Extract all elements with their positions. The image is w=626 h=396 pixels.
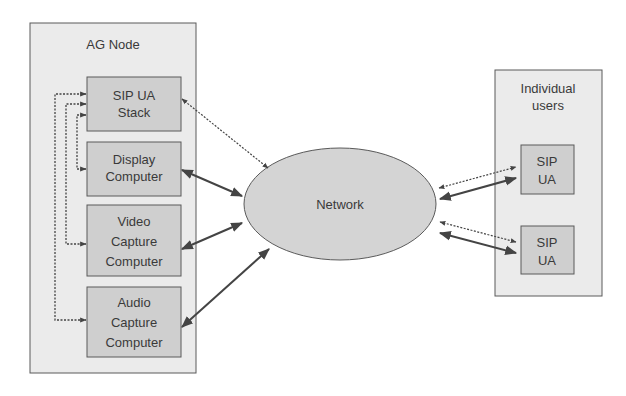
audio-capture-label-line2: Capture bbox=[111, 315, 157, 330]
display-computer-label-line1: Display bbox=[113, 152, 156, 167]
video-capture-label-line3: Computer bbox=[105, 254, 163, 269]
individual-users-title-line1: Individual bbox=[521, 81, 576, 96]
sip-ua-2-box: SIP UA bbox=[521, 226, 574, 274]
network-label: Network bbox=[316, 197, 364, 212]
video-capture-computer-box: Video Capture Computer bbox=[87, 205, 181, 276]
individual-users-title-line2: users bbox=[532, 98, 564, 113]
display-computer-box: Display Computer bbox=[87, 142, 181, 196]
sip-ua-2-label-line1: SIP bbox=[537, 235, 558, 250]
video-capture-label-line1: Video bbox=[117, 214, 150, 229]
diagram-canvas: AG Node SIP UA Stack Display Computer Vi… bbox=[0, 0, 626, 396]
audio-capture-label-line1: Audio bbox=[117, 295, 150, 310]
sip-ua-2-label-line2: UA bbox=[538, 253, 556, 268]
audio-capture-label-line3: Computer bbox=[105, 335, 163, 350]
sip-ua-stack-box: SIP UA Stack bbox=[87, 77, 181, 131]
network-node: Network bbox=[244, 148, 436, 260]
sip-ua-1-box: SIP UA bbox=[521, 145, 574, 194]
sip-ua-stack-label-line2: Stack bbox=[118, 105, 151, 120]
sip-ua-stack-label-line1: SIP UA bbox=[113, 88, 156, 103]
sip-ua-1-label-line2: UA bbox=[538, 172, 556, 187]
ag-node-title: AG Node bbox=[86, 37, 139, 52]
display-computer-label-line2: Computer bbox=[105, 169, 163, 184]
audio-capture-computer-box: Audio Capture Computer bbox=[87, 287, 181, 357]
video-capture-label-line2: Capture bbox=[111, 234, 157, 249]
sip-ua-1-label-line1: SIP bbox=[537, 154, 558, 169]
